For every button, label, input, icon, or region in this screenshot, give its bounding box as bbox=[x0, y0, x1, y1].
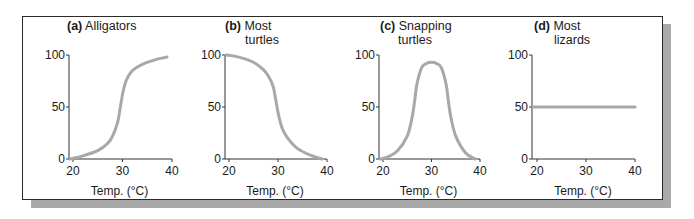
x-axis-label: Temp. (°C) bbox=[91, 184, 148, 198]
x-axis-label: Temp. (°C) bbox=[554, 184, 611, 198]
y-tick-label: 0 bbox=[58, 152, 65, 166]
sex-ratio-curve bbox=[380, 62, 475, 159]
y-tick-label: 0 bbox=[521, 152, 528, 166]
x-tick-label: 20 bbox=[66, 164, 80, 178]
x-axis-label: Temp. (°C) bbox=[246, 184, 303, 198]
y-tick-label: 100 bbox=[355, 48, 375, 62]
panel-a-title: (a) Alligators bbox=[67, 19, 137, 33]
y-tick-label: 0 bbox=[214, 152, 221, 166]
axes bbox=[379, 55, 480, 159]
x-tick-label: 40 bbox=[320, 164, 334, 178]
sex-ratio-curve bbox=[226, 55, 322, 159]
panel-d: (d) Most lizards 050100203040Temp. (°C) bbox=[508, 19, 642, 198]
y-tick-label: 0 bbox=[368, 152, 375, 166]
y-tick-label: 100 bbox=[201, 48, 221, 62]
y-tick-label: 50 bbox=[52, 100, 66, 114]
x-tick-label: 30 bbox=[425, 164, 439, 178]
x-tick-label: 40 bbox=[165, 164, 179, 178]
panel-b-title: (b) Most bbox=[225, 19, 272, 33]
y-tick-label: 100 bbox=[45, 48, 65, 62]
panel-c-title: (c) Snapping bbox=[380, 19, 452, 33]
x-tick-label: 30 bbox=[271, 164, 285, 178]
x-tick-label: 30 bbox=[116, 164, 130, 178]
x-tick-label: 30 bbox=[579, 164, 593, 178]
y-tick-label: 50 bbox=[208, 100, 222, 114]
x-tick-label: 40 bbox=[628, 164, 642, 178]
y-tick-label: 100 bbox=[508, 48, 528, 62]
y-tick-label: 50 bbox=[515, 100, 529, 114]
panel-c: (c) Snapping turtles 050100203040Temp. (… bbox=[355, 19, 487, 198]
sex-ratio-curve bbox=[70, 57, 167, 159]
x-axis-label: Temp. (°C) bbox=[400, 184, 457, 198]
panel-d-title: (d) Most bbox=[534, 19, 581, 33]
x-tick-label: 20 bbox=[530, 164, 544, 178]
panel-d-title-line2: lizards bbox=[554, 33, 590, 47]
x-tick-label: 20 bbox=[222, 164, 236, 178]
panel-b: (b) Most turtles 050100203040Temp. (°C) bbox=[201, 19, 334, 198]
panel-c-title-line2: turtles bbox=[398, 33, 432, 47]
panel-a: (a) Alligators 050100203040Temp. (°C) bbox=[45, 19, 179, 198]
x-tick-label: 20 bbox=[376, 164, 390, 178]
y-tick-label: 50 bbox=[362, 100, 376, 114]
x-tick-label: 40 bbox=[473, 164, 487, 178]
figure-panels: (a) Alligators 050100203040Temp. (°C) (b… bbox=[0, 0, 694, 219]
panel-b-title-line2: turtles bbox=[245, 33, 279, 47]
